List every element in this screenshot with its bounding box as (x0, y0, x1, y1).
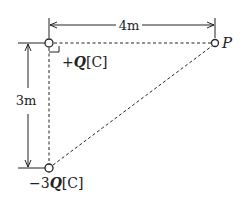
charge-bottom-unit: [C] (62, 175, 84, 191)
vertical-distance-label: 3m (16, 93, 37, 108)
charge-top-symbol: Q (74, 54, 86, 70)
charge-bottom-sign: − (29, 175, 41, 191)
point-p-label: P (221, 34, 233, 52)
charge-top-sign: + (62, 54, 74, 70)
charge-bottom-coef: 3 (41, 175, 50, 191)
charge-bottom-marker (45, 164, 53, 172)
charge-bottom-label: −3Q[C] (29, 175, 84, 191)
charge-diagram: 4m 3m P +Q[C] −3Q[C] (0, 0, 252, 208)
charge-top-unit: [C] (86, 54, 108, 70)
charge-top-marker (45, 39, 53, 47)
point-p-marker (212, 40, 219, 47)
charge-bottom-symbol: Q (50, 175, 62, 191)
horizontal-distance-label: 4m (119, 18, 140, 33)
charge-top-label: +Q[C] (62, 54, 108, 70)
